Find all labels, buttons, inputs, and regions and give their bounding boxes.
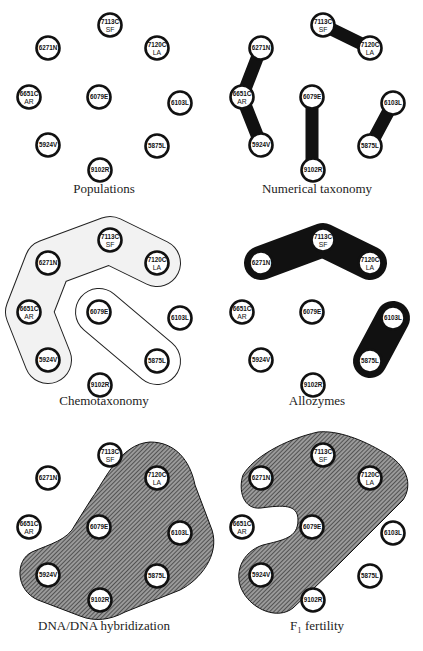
- population-node-6271N: 6271N: [37, 37, 60, 60]
- node-circle: [359, 37, 382, 60]
- population-node-5924V: 5924V: [37, 564, 60, 587]
- node-circle: [146, 37, 169, 60]
- node-code: 6271N: [39, 44, 58, 51]
- population-node-7120C: 7120CLA: [146, 37, 169, 60]
- population-node-6079E: 6079E: [301, 301, 324, 324]
- node-code: 7120C: [148, 41, 167, 48]
- node-code: 5875L: [148, 357, 166, 364]
- population-node-5875L: 5875L: [359, 350, 382, 373]
- population-node-5924V: 5924V: [37, 134, 60, 157]
- node-code: 5875L: [148, 572, 166, 579]
- population-node-5875L: 5875L: [146, 350, 169, 373]
- node-code: 7120C: [361, 41, 380, 48]
- node-locality: SF: [319, 26, 328, 33]
- node-circle: [231, 86, 254, 109]
- node-code: 7113C: [101, 448, 120, 455]
- node-circle: [99, 229, 122, 252]
- population-node-5875L: 5875L: [146, 565, 169, 588]
- node-locality: SF: [319, 456, 328, 463]
- node-circle: [18, 516, 41, 539]
- population-node-9102R: 9102R: [89, 159, 112, 182]
- node-code: 5875L: [148, 142, 166, 149]
- node-code: 6103L: [384, 314, 402, 321]
- node-code: 6271N: [252, 44, 271, 51]
- node-locality: LA: [153, 49, 162, 56]
- node-locality: LA: [153, 264, 162, 271]
- node-locality: SF: [319, 241, 328, 248]
- population-node-7113C: 7113CSF: [99, 444, 122, 467]
- population-node-5875L: 5875L: [359, 565, 382, 588]
- node-locality: AR: [237, 313, 247, 320]
- node-code: 6651C: [233, 520, 252, 527]
- population-node-6651C: 6651CAR: [18, 86, 41, 109]
- population-node-6079E: 6079E: [301, 516, 324, 539]
- population-node-6651C: 6651CAR: [231, 301, 254, 324]
- population-node-9102R: 9102R: [302, 159, 325, 182]
- node-code: 6079E: [90, 308, 108, 315]
- population-node-7120C: 7120CLA: [359, 252, 382, 275]
- node-locality: AR: [24, 98, 34, 105]
- node-code: 6271N: [39, 474, 58, 481]
- population-node-5924V: 5924V: [37, 349, 60, 372]
- node-circle: [312, 14, 335, 37]
- node-code: 6651C: [20, 520, 39, 527]
- population-node-6103L: 6103L: [382, 522, 405, 545]
- node-circle: [99, 444, 122, 467]
- population-node-7113C: 7113CSF: [312, 444, 335, 467]
- node-code: 5875L: [361, 142, 379, 149]
- population-node-6651C: 6651CAR: [18, 301, 41, 324]
- node-circle: [312, 444, 335, 467]
- node-code: 9102R: [91, 166, 110, 173]
- node-code: 5924V: [252, 356, 271, 363]
- population-node-6103L: 6103L: [169, 522, 192, 545]
- node-code: 6079E: [90, 93, 108, 100]
- population-node-6103L: 6103L: [169, 92, 192, 115]
- population-node-5924V: 5924V: [250, 134, 273, 157]
- node-code: 5924V: [252, 141, 271, 148]
- node-code: 6079E: [303, 93, 321, 100]
- population-node-7120C: 7120CLA: [146, 252, 169, 275]
- node-code: 9102R: [304, 381, 323, 388]
- node-code: 5924V: [39, 356, 58, 363]
- node-code: 6651C: [20, 305, 39, 312]
- node-code: 5924V: [39, 141, 58, 148]
- population-node-7120C: 7120CLA: [359, 467, 382, 490]
- node-circle: [99, 14, 122, 37]
- population-node-7113C: 7113CSF: [99, 229, 122, 252]
- population-node-7120C: 7120CLA: [146, 467, 169, 490]
- population-node-5875L: 5875L: [146, 135, 169, 158]
- population-node-5924V: 5924V: [250, 564, 273, 587]
- node-code: 6103L: [384, 99, 402, 106]
- population-node-6079E: 6079E: [88, 86, 111, 109]
- node-circle: [359, 252, 382, 275]
- panel-title-numerical-taxonomy: Numerical taxonomy: [262, 181, 373, 196]
- population-node-6271N: 6271N: [250, 252, 273, 275]
- nodes-populations: 7113CSF6271N7120CLA6651CAR6079E6103L5924…: [18, 14, 192, 182]
- panel-title-allozymes: Allozymes: [289, 393, 345, 408]
- population-node-6651C: 6651CAR: [231, 516, 254, 539]
- node-locality: SF: [106, 456, 115, 463]
- node-locality: AR: [237, 98, 247, 105]
- population-node-6271N: 6271N: [250, 37, 273, 60]
- node-code: 6079E: [90, 523, 108, 530]
- node-locality: LA: [366, 264, 375, 271]
- node-code: 6103L: [171, 529, 189, 536]
- node-circle: [18, 301, 41, 324]
- node-code: 7120C: [361, 471, 380, 478]
- similarity-diagram-figure: 7113CSF6271N7120CLA6651CAR6079E6103L5924…: [0, 0, 423, 651]
- panel-title-f1-fertility: F₁ fertility: [290, 618, 344, 633]
- population-node-7120C: 7120CLA: [359, 37, 382, 60]
- node-locality: SF: [106, 241, 115, 248]
- node-code: 6103L: [171, 99, 189, 106]
- node-code: 5875L: [361, 357, 379, 364]
- node-code: 7113C: [314, 448, 333, 455]
- node-code: 6079E: [303, 523, 321, 530]
- population-node-6103L: 6103L: [382, 92, 405, 115]
- population-node-6271N: 6271N: [250, 467, 273, 490]
- node-code: 7113C: [101, 233, 120, 240]
- node-code: 7120C: [148, 471, 167, 478]
- node-code: 9102R: [91, 381, 110, 388]
- node-circle: [312, 229, 335, 252]
- node-circle: [231, 301, 254, 324]
- population-node-6103L: 6103L: [169, 307, 192, 330]
